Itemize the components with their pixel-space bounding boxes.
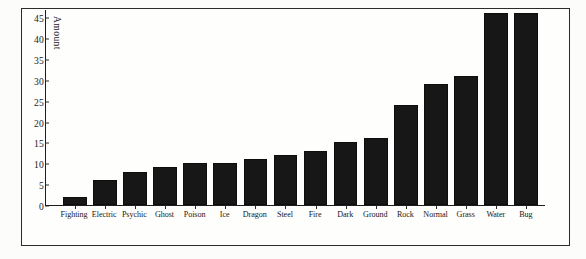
y-axis-tick-mark (45, 122, 49, 123)
x-axis-tick-mark (496, 205, 497, 209)
bar-slot (301, 10, 331, 205)
bar-slot (361, 10, 391, 205)
y-axis-tick-label: 40 (34, 34, 44, 45)
y-axis-tick-mark (45, 143, 49, 144)
bar (394, 105, 418, 205)
x-axis-category-label: Electric (89, 210, 119, 226)
bar-slot (481, 10, 511, 205)
x-axis-category-label: Fighting (59, 210, 89, 226)
bar (424, 84, 448, 205)
x-axis-category-label: Water (481, 210, 511, 226)
bar-slot (421, 10, 451, 205)
x-axis-tick-mark (135, 205, 136, 209)
y-axis-tick-label: 25 (34, 96, 44, 107)
x-axis-category-label: Dark (330, 210, 360, 226)
bar-slot (210, 10, 240, 205)
y-axis-tick-mark (45, 164, 49, 165)
bar (454, 76, 478, 205)
bar-slot (180, 10, 210, 205)
x-axis-category-label: Dragon (240, 210, 270, 226)
x-axis-tick-mark (105, 205, 106, 209)
bar (274, 155, 298, 205)
bar-slot (120, 10, 150, 205)
x-axis-category-label: Psychic (119, 210, 149, 226)
bar-slot (60, 10, 90, 205)
bar-slot (150, 10, 180, 205)
bar-slot (90, 10, 120, 205)
y-axis-tick-mark (45, 39, 49, 40)
y-axis-tick-labels: 051015202530354045 (24, 10, 44, 206)
bar (364, 138, 388, 205)
bar (244, 159, 268, 205)
x-axis-category-label: Normal (421, 210, 451, 226)
y-axis-tick-label: 15 (34, 138, 44, 149)
bars-container (46, 10, 545, 205)
bar-slot (331, 10, 361, 205)
bar-slot (511, 10, 541, 205)
bar (123, 172, 147, 205)
x-axis-tick-mark (285, 205, 286, 209)
bar (93, 180, 117, 205)
y-axis-tick-mark (45, 60, 49, 61)
bar (183, 163, 207, 205)
y-axis-tick-label: 10 (34, 159, 44, 170)
x-axis-tick-mark (316, 205, 317, 209)
x-axis-category-label: Ground (360, 210, 390, 226)
x-axis-tick-mark (75, 205, 76, 209)
x-axis-tick-mark (466, 205, 467, 209)
bar (153, 167, 177, 205)
y-axis-tick-label: 30 (34, 75, 44, 86)
bar-slot (391, 10, 421, 205)
y-axis-tick-label: 45 (34, 13, 44, 24)
y-axis-tick-mark (45, 18, 49, 19)
x-axis-tick-mark (526, 205, 527, 209)
x-axis-category-label: Fire (300, 210, 330, 226)
x-axis-tick-mark (225, 205, 226, 209)
x-axis-category-label: Rock (390, 210, 420, 226)
bar (304, 151, 328, 205)
x-axis-category-label: Ghost (149, 210, 179, 226)
x-axis-tick-mark (255, 205, 256, 209)
y-axis-tick-mark (45, 185, 49, 186)
x-axis-tick-labels: FightingElectricPsychicGhostPoisonIceDra… (45, 210, 545, 226)
bar (213, 163, 237, 205)
x-axis-tick-mark (165, 205, 166, 209)
x-axis-category-label: Bug (511, 210, 541, 226)
plot-area (45, 10, 545, 206)
x-axis-category-label: Grass (451, 210, 481, 226)
x-axis-tick-mark (346, 205, 347, 209)
x-axis-category-label: Poison (180, 210, 210, 226)
bar (484, 13, 508, 205)
y-axis-tick-label: 5 (39, 180, 44, 191)
y-axis-tick-mark (45, 101, 49, 102)
x-axis-tick-mark (376, 205, 377, 209)
bar (334, 142, 358, 205)
bar-slot (270, 10, 300, 205)
x-axis-tick-mark (406, 205, 407, 209)
x-axis-tick-mark (195, 205, 196, 209)
bar-slot (240, 10, 270, 205)
bar (514, 13, 538, 205)
y-axis-tick-label: 20 (34, 117, 44, 128)
y-axis-tick-mark (45, 80, 49, 81)
bar-slot (451, 10, 481, 205)
bar-chart-figure: Amount 051015202530354045 FightingElectr… (0, 0, 586, 259)
x-axis-tick-mark (436, 205, 437, 209)
x-axis-category-label: Steel (270, 210, 300, 226)
y-axis-tick-label: 0 (39, 201, 44, 212)
x-axis-category-label: Ice (210, 210, 240, 226)
y-axis-tick-mark (45, 206, 49, 207)
y-axis-tick-label: 35 (34, 55, 44, 66)
bar (63, 197, 87, 205)
